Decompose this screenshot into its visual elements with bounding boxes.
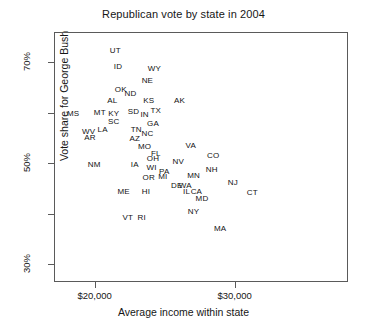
x-axis-title: Average income within state xyxy=(0,306,367,318)
x-tick-mark xyxy=(235,282,236,288)
x-tick-label: $20,000 xyxy=(77,290,111,301)
x-tick-mark xyxy=(95,282,96,288)
data-point-label: AR xyxy=(84,134,96,142)
data-point-label: MN xyxy=(187,172,200,180)
data-point-label: IA xyxy=(131,161,139,169)
data-point-label: WY xyxy=(148,65,161,73)
data-point-label: SC xyxy=(108,118,120,126)
data-point-label: MS xyxy=(67,110,79,118)
data-point-label: MA xyxy=(214,225,226,233)
data-point-label: OR xyxy=(143,174,155,182)
chart-title: Republican vote by state in 2004 xyxy=(0,8,367,20)
data-point-label: KS xyxy=(143,97,154,105)
data-point-label: NC xyxy=(141,130,153,138)
data-point-label: CO xyxy=(207,152,219,160)
data-point-label: GA xyxy=(147,120,159,128)
x-tick-label: $30,000 xyxy=(217,290,251,301)
data-point-label: NM xyxy=(88,161,101,169)
y-tick-label: 70% xyxy=(21,42,32,82)
data-point-label: MD xyxy=(196,195,209,203)
data-point-label: ND xyxy=(125,90,137,98)
data-point-label: MO xyxy=(138,143,151,151)
scatter-plot-figure: Republican vote by state in 2004 Vote sh… xyxy=(0,0,367,335)
y-tick-label: 30% xyxy=(21,244,32,284)
data-point-label: HI xyxy=(142,188,150,196)
data-point-label: SD xyxy=(128,108,140,116)
y-tick-label: 50% xyxy=(21,143,32,183)
data-point-label: UT xyxy=(110,47,121,55)
data-point-label: NY xyxy=(188,208,200,216)
data-point-label: RI xyxy=(138,214,146,222)
data-point-label: WI xyxy=(147,164,157,172)
data-point-label: TX xyxy=(150,107,161,115)
data-point-label: IN xyxy=(140,111,148,119)
data-point-label: AL xyxy=(107,97,117,105)
data-point-label: CT xyxy=(247,189,258,197)
data-point-label: LA xyxy=(98,126,108,134)
data-point-label: NJ xyxy=(228,179,238,187)
data-point-label: IL xyxy=(183,188,190,196)
data-point-label: VT xyxy=(122,214,133,222)
data-point-label: NH xyxy=(206,166,218,174)
data-point-label: ID xyxy=(114,63,122,71)
data-point-label: MT xyxy=(94,109,106,117)
data-point-label: ME xyxy=(117,188,129,196)
data-point-label: VA xyxy=(186,142,196,150)
plot-area: UTIDWYNEOKNDALKSAKMSMTKYSDINTXSCGAWVLATN… xyxy=(54,32,348,282)
data-point-label: NE xyxy=(142,77,154,85)
data-point-label: MI xyxy=(158,173,167,181)
data-point-label: NV xyxy=(172,158,184,166)
data-point-label: AK xyxy=(174,97,185,105)
